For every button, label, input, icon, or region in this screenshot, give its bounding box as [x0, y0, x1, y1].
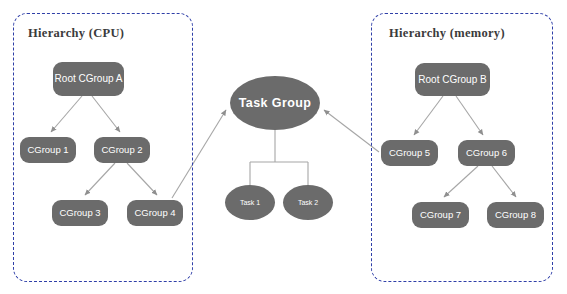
node-task-group[interactable]: Task Group: [230, 76, 320, 130]
node-label: CGroup 1: [27, 145, 68, 155]
node-label: CGroup 3: [59, 208, 100, 218]
node-cgroup-8[interactable]: CGroup 8: [487, 202, 544, 228]
node-root-cgroup-a[interactable]: Root CGroup A: [53, 62, 124, 96]
hierarchy-title-cpu: Hierarchy (CPU): [28, 26, 124, 41]
edge-task-group-to-tasks: [250, 130, 308, 186]
diagram-canvas: Hierarchy (CPU) Hierarchy (memory) Root …: [0, 0, 567, 294]
node-label: CGroup 6: [466, 148, 507, 158]
node-cgroup-2[interactable]: CGroup 2: [94, 137, 150, 163]
node-label: Task 1: [240, 199, 260, 206]
node-cgroup-7[interactable]: CGroup 7: [412, 202, 469, 228]
node-label: CGroup 5: [389, 148, 430, 158]
node-label: Root CGroup A: [55, 74, 123, 84]
node-label: CGroup 4: [134, 208, 175, 218]
node-cgroup-3[interactable]: CGroup 3: [52, 200, 108, 226]
node-label: Root CGroup B: [418, 75, 486, 85]
node-root-cgroup-b[interactable]: Root CGroup B: [415, 63, 490, 96]
node-label: CGroup 8: [495, 210, 536, 220]
node-cgroup-6[interactable]: CGroup 6: [458, 140, 515, 166]
node-cgroup-4[interactable]: CGroup 4: [127, 200, 183, 226]
node-task-1[interactable]: Task 1: [225, 185, 275, 220]
node-label: CGroup 2: [101, 145, 142, 155]
node-cgroup-5[interactable]: CGroup 5: [381, 140, 438, 166]
node-label: Task 2: [298, 199, 318, 206]
node-label: Task Group: [239, 97, 312, 110]
node-task-2[interactable]: Task 2: [283, 185, 333, 220]
hierarchy-title-memory: Hierarchy (memory): [389, 26, 505, 41]
node-label: CGroup 7: [420, 210, 461, 220]
node-cgroup-1[interactable]: CGroup 1: [20, 137, 76, 163]
